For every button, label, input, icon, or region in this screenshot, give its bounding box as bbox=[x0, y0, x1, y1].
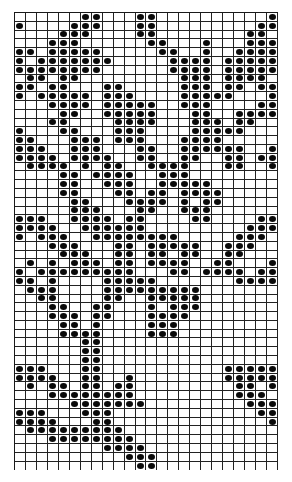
grid-cell bbox=[125, 268, 136, 277]
grid-cell bbox=[267, 453, 278, 462]
grid-cell bbox=[201, 215, 212, 224]
grid-cell bbox=[103, 242, 114, 251]
stitch-dot-icon bbox=[137, 207, 144, 213]
grid-cell bbox=[201, 365, 212, 374]
stitch-dot-icon bbox=[247, 49, 254, 55]
grid-cell bbox=[114, 409, 125, 418]
grid-cell bbox=[168, 259, 179, 268]
stitch-dot-icon bbox=[247, 278, 254, 284]
grid-cell bbox=[223, 13, 234, 22]
stitch-dot-icon bbox=[269, 278, 276, 284]
grid-cell bbox=[212, 312, 223, 321]
grid-cell bbox=[81, 277, 92, 286]
grid-cell bbox=[26, 145, 37, 154]
grid-cell bbox=[179, 426, 190, 435]
grid-cell bbox=[125, 453, 136, 462]
grid-cell bbox=[15, 145, 26, 154]
grid-cell bbox=[26, 92, 37, 101]
stitch-dot-icon bbox=[115, 278, 122, 284]
grid-cell bbox=[136, 295, 147, 304]
grid-cell bbox=[15, 127, 26, 136]
stitch-dot-icon bbox=[258, 366, 265, 372]
grid-cell bbox=[245, 286, 256, 295]
grid-cell bbox=[267, 207, 278, 216]
stitch-dot-icon bbox=[82, 163, 89, 169]
grid-cell bbox=[103, 66, 114, 75]
grid-cell bbox=[168, 338, 179, 347]
grid-cell bbox=[26, 57, 37, 66]
grid-cell bbox=[15, 13, 26, 22]
grid-cell bbox=[26, 180, 37, 189]
stitch-dot-icon bbox=[27, 419, 34, 425]
stitch-dot-icon bbox=[104, 304, 111, 310]
stitch-dot-icon bbox=[49, 155, 56, 161]
grid-cell bbox=[15, 286, 26, 295]
grid-cell bbox=[223, 136, 234, 145]
grid-cell bbox=[179, 251, 190, 260]
grid-cell bbox=[267, 330, 278, 339]
stitch-dot-icon bbox=[60, 322, 67, 328]
grid-cell bbox=[256, 224, 267, 233]
grid-cell bbox=[245, 295, 256, 304]
stitch-dot-icon bbox=[71, 313, 78, 319]
grid-cell bbox=[223, 154, 234, 163]
stitch-dot-icon bbox=[126, 260, 133, 266]
grid-cell bbox=[125, 198, 136, 207]
grid-cell bbox=[114, 83, 125, 92]
stitch-dot-icon bbox=[49, 392, 56, 398]
stitch-dot-icon bbox=[93, 225, 100, 231]
grid-cell bbox=[15, 92, 26, 101]
grid-cell bbox=[201, 242, 212, 251]
stitch-dot-icon bbox=[49, 269, 56, 275]
grid-cell bbox=[59, 101, 70, 110]
stitch-dot-icon bbox=[159, 260, 166, 266]
grid-cell bbox=[59, 233, 70, 242]
grid-cell bbox=[157, 31, 168, 40]
grid-cell bbox=[267, 233, 278, 242]
grid-cell bbox=[125, 338, 136, 347]
grid-cell bbox=[15, 119, 26, 128]
grid-cell bbox=[114, 295, 125, 304]
grid-cell bbox=[114, 391, 125, 400]
grid-cell bbox=[256, 57, 267, 66]
grid-cell bbox=[223, 374, 234, 383]
grid-cell bbox=[92, 242, 103, 251]
grid-cell bbox=[179, 365, 190, 374]
grid-cell bbox=[136, 242, 147, 251]
stitch-dot-icon bbox=[104, 93, 111, 99]
grid-cell bbox=[256, 435, 267, 444]
stitch-dot-icon bbox=[137, 31, 144, 37]
stitch-dot-icon bbox=[247, 58, 254, 64]
grid-cell bbox=[59, 154, 70, 163]
grid-cell bbox=[26, 462, 37, 471]
stitch-dot-icon bbox=[170, 58, 177, 64]
stitch-dot-icon bbox=[49, 383, 56, 389]
grid-cell bbox=[179, 321, 190, 330]
grid-cell bbox=[234, 145, 245, 154]
stitch-dot-icon bbox=[38, 163, 45, 169]
grid-cell bbox=[125, 13, 136, 22]
grid-cell bbox=[190, 338, 201, 347]
stitch-dot-icon bbox=[27, 84, 34, 90]
grid-cell bbox=[223, 180, 234, 189]
stitch-dot-icon bbox=[49, 375, 56, 381]
grid-cell bbox=[146, 110, 157, 119]
grid-cell bbox=[37, 136, 48, 145]
grid-cell bbox=[15, 426, 26, 435]
stitch-dot-icon bbox=[148, 304, 155, 310]
grid-cell bbox=[267, 295, 278, 304]
grid-cell bbox=[125, 215, 136, 224]
grid-cell bbox=[267, 347, 278, 356]
grid-cell bbox=[125, 39, 136, 48]
grid-cell bbox=[37, 251, 48, 260]
grid-cell bbox=[81, 101, 92, 110]
grid-cell bbox=[168, 312, 179, 321]
grid-cell bbox=[37, 57, 48, 66]
grid-cell bbox=[48, 409, 59, 418]
grid-cell bbox=[125, 75, 136, 84]
grid-cell bbox=[234, 233, 245, 242]
grid-cell bbox=[114, 418, 125, 427]
grid-cell bbox=[70, 268, 81, 277]
grid-cell bbox=[37, 171, 48, 180]
grid-cell bbox=[48, 286, 59, 295]
